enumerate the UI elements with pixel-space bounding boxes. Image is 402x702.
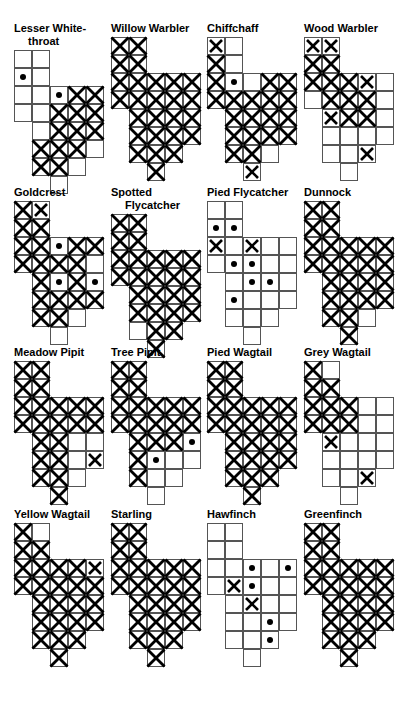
grid-cell-hatch[interactable] bbox=[50, 309, 68, 327]
grid-cell-hatch[interactable] bbox=[183, 91, 201, 109]
grid-cell-hatch[interactable] bbox=[86, 415, 104, 433]
grid-cell-empty[interactable] bbox=[261, 309, 279, 327]
grid-cell-hatch[interactable] bbox=[322, 237, 340, 255]
grid-cell-hatch[interactable] bbox=[165, 433, 183, 451]
grid-cell-hatch[interactable] bbox=[376, 613, 394, 631]
grid-cell-empty[interactable] bbox=[340, 163, 358, 181]
grid-cell-dot[interactable] bbox=[261, 631, 279, 649]
grid-cell-hatch[interactable] bbox=[50, 613, 68, 631]
grid-cell-empty[interactable] bbox=[225, 309, 243, 327]
grid-cell-hatch[interactable] bbox=[225, 127, 243, 145]
grid-cell-dot[interactable] bbox=[50, 273, 68, 291]
grid-cell-hatch[interactable] bbox=[147, 304, 165, 322]
grid-cell-dot[interactable] bbox=[225, 73, 243, 91]
grid-cell-hatch[interactable] bbox=[165, 559, 183, 577]
grid-cell-hatch[interactable] bbox=[279, 127, 297, 145]
grid-cell-hatch[interactable] bbox=[358, 595, 376, 613]
grid-cell-hatch[interactable] bbox=[147, 73, 165, 91]
grid-cell-empty[interactable] bbox=[340, 469, 358, 487]
grid-cell-hatch[interactable] bbox=[225, 415, 243, 433]
grid-cell-empty[interactable] bbox=[147, 487, 165, 505]
grid-cell-hatch[interactable] bbox=[165, 595, 183, 613]
grid-cell-hatch[interactable] bbox=[340, 613, 358, 631]
grid-cell-hatch[interactable] bbox=[322, 595, 340, 613]
grid-cell-dot[interactable] bbox=[50, 86, 68, 104]
grid-cell-hatch[interactable] bbox=[165, 145, 183, 163]
grid-cell-dot[interactable] bbox=[14, 68, 32, 86]
grid-cell-empty[interactable] bbox=[261, 577, 279, 595]
grid-cell-hatch[interactable] bbox=[14, 255, 32, 273]
grid-cell-empty[interactable] bbox=[340, 451, 358, 469]
grid-cell-hatch[interactable] bbox=[358, 91, 376, 109]
grid-cell-hatch[interactable] bbox=[207, 91, 225, 109]
grid-cell-hatch[interactable] bbox=[14, 577, 32, 595]
grid-cell-hatch[interactable] bbox=[68, 291, 86, 309]
grid-cell-hatch[interactable] bbox=[358, 273, 376, 291]
grid-cell-empty[interactable] bbox=[322, 127, 340, 145]
grid-cell-hatch[interactable] bbox=[129, 73, 147, 91]
grid-cell-empty[interactable] bbox=[243, 309, 261, 327]
grid-cell-hatch[interactable] bbox=[304, 73, 322, 91]
grid-cell-hatch[interactable] bbox=[147, 163, 165, 181]
grid-cell-empty[interactable] bbox=[86, 140, 104, 158]
grid-cell-hatch[interactable] bbox=[147, 649, 165, 667]
grid-cell-hatch[interactable] bbox=[129, 379, 147, 397]
grid-cell-hatch[interactable] bbox=[358, 291, 376, 309]
grid-cell-empty[interactable] bbox=[261, 559, 279, 577]
grid-cell-hatch[interactable] bbox=[322, 91, 340, 109]
grid-cell-hatch[interactable] bbox=[322, 55, 340, 73]
grid-cell-hatch[interactable] bbox=[165, 250, 183, 268]
grid-cell-cross[interactable] bbox=[86, 559, 104, 577]
grid-cell-hatch[interactable] bbox=[279, 397, 297, 415]
grid-cell-empty[interactable] bbox=[243, 327, 261, 345]
grid-cell-hatch[interactable] bbox=[111, 55, 129, 73]
grid-cell-hatch[interactable] bbox=[32, 140, 50, 158]
grid-cell-hatch[interactable] bbox=[183, 304, 201, 322]
grid-cell-hatch[interactable] bbox=[129, 523, 147, 541]
grid-cell-empty[interactable] bbox=[279, 291, 297, 309]
grid-cell-hatch[interactable] bbox=[261, 91, 279, 109]
grid-cell-empty[interactable] bbox=[358, 397, 376, 415]
grid-cell-hatch[interactable] bbox=[32, 433, 50, 451]
grid-cell-hatch[interactable] bbox=[322, 201, 340, 219]
grid-cell-empty[interactable] bbox=[376, 451, 394, 469]
grid-cell-hatch[interactable] bbox=[129, 559, 147, 577]
grid-cell-hatch[interactable] bbox=[14, 541, 32, 559]
grid-cell-hatch[interactable] bbox=[50, 104, 68, 122]
grid-cell-empty[interactable] bbox=[225, 613, 243, 631]
grid-cell-hatch[interactable] bbox=[304, 577, 322, 595]
grid-cell-empty[interactable] bbox=[279, 237, 297, 255]
grid-cell-empty[interactable] bbox=[243, 613, 261, 631]
grid-cell-empty[interactable] bbox=[376, 397, 394, 415]
grid-cell-hatch[interactable] bbox=[111, 214, 129, 232]
grid-cell-hatch[interactable] bbox=[14, 379, 32, 397]
grid-cell-hatch[interactable] bbox=[322, 73, 340, 91]
grid-cell-empty[interactable] bbox=[225, 631, 243, 649]
grid-cell-hatch[interactable] bbox=[50, 577, 68, 595]
grid-cell-hatch[interactable] bbox=[129, 469, 147, 487]
grid-cell-empty[interactable] bbox=[86, 255, 104, 273]
grid-cell-dot[interactable] bbox=[261, 273, 279, 291]
grid-cell-empty[interactable] bbox=[304, 91, 322, 109]
grid-cell-dot[interactable] bbox=[207, 219, 225, 237]
grid-cell-empty[interactable] bbox=[32, 104, 50, 122]
grid-cell-empty[interactable] bbox=[322, 451, 340, 469]
grid-cell-hatch[interactable] bbox=[225, 433, 243, 451]
grid-cell-hatch[interactable] bbox=[147, 127, 165, 145]
grid-cell-hatch[interactable] bbox=[86, 291, 104, 309]
grid-cell-hatch[interactable] bbox=[129, 613, 147, 631]
grid-cell-hatch[interactable] bbox=[129, 91, 147, 109]
grid-cell-hatch[interactable] bbox=[147, 286, 165, 304]
grid-cell-hatch[interactable] bbox=[340, 309, 358, 327]
grid-cell-hatch[interactable] bbox=[14, 559, 32, 577]
grid-cell-cross[interactable] bbox=[243, 237, 261, 255]
grid-cell-hatch[interactable] bbox=[243, 487, 261, 505]
grid-cell-hatch[interactable] bbox=[68, 613, 86, 631]
grid-cell-hatch[interactable] bbox=[129, 361, 147, 379]
grid-cell-hatch[interactable] bbox=[147, 250, 165, 268]
grid-cell-hatch[interactable] bbox=[340, 327, 358, 345]
grid-cell-hatch[interactable] bbox=[304, 541, 322, 559]
grid-cell-hatch[interactable] bbox=[207, 73, 225, 91]
grid-cell-hatch[interactable] bbox=[183, 595, 201, 613]
grid-cell-empty[interactable] bbox=[225, 237, 243, 255]
